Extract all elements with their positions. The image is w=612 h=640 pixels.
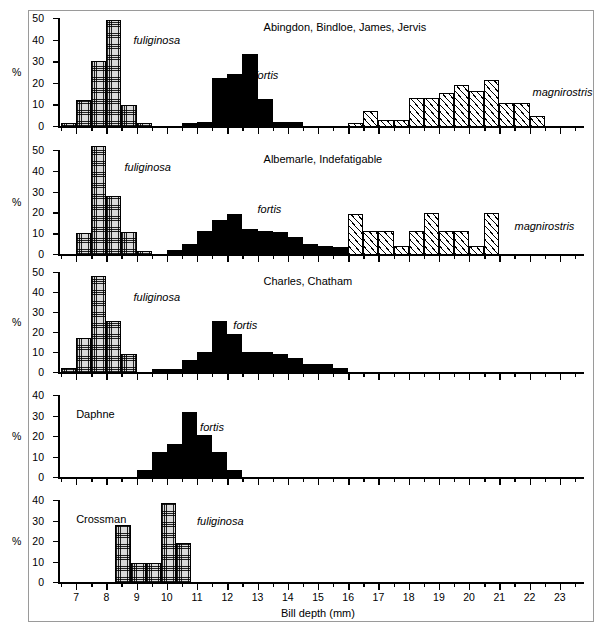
x-tick-minor (424, 374, 425, 378)
x-tick-minor (484, 479, 485, 483)
histogram-bar (121, 105, 136, 126)
y-tick-label: 50 (32, 13, 44, 24)
x-tick-major (167, 128, 168, 134)
histogram-bar (227, 74, 242, 126)
histogram-bar (454, 85, 469, 126)
species-label-fortis: fortis (200, 422, 224, 433)
species-label-fortis: fortis (233, 320, 257, 331)
x-tick-major (197, 128, 198, 134)
x-tick-minor (424, 584, 425, 588)
x-tick-major (137, 479, 138, 485)
x-tick-label: 17 (373, 592, 385, 603)
x-tick-label: 7 (73, 592, 79, 603)
histogram-bar (161, 503, 176, 582)
x-tick-major (318, 374, 319, 380)
y-tick (53, 192, 58, 193)
y-tick-label: 40 (32, 34, 44, 45)
y-axis-label-percent: % (12, 67, 21, 78)
x-tick-major (258, 479, 259, 485)
histogram-bar (182, 123, 197, 126)
y-tick (53, 436, 58, 437)
histogram-bar (258, 352, 273, 372)
x-tick-minor (273, 584, 274, 588)
x-tick-major (348, 256, 349, 262)
x-tick-minor (121, 479, 122, 483)
histogram-bar (176, 543, 191, 582)
x-tick-minor (484, 374, 485, 378)
x-tick-major (288, 256, 289, 262)
x-tick-major (318, 479, 319, 485)
x-tick-minor (514, 128, 515, 132)
histogram-bar (212, 78, 227, 126)
histogram-bar (409, 231, 424, 254)
x-tick-major (439, 374, 440, 380)
y-tick-label: 40 (32, 390, 44, 401)
x-tick-minor (575, 128, 576, 132)
x-tick-major (530, 374, 531, 380)
x-tick-major (530, 256, 531, 262)
x-tick-label: 13 (252, 592, 264, 603)
x-tick-label: 15 (312, 592, 324, 603)
x-tick-label: 14 (282, 592, 294, 603)
x-tick-major (106, 374, 107, 380)
histogram-bar (76, 338, 91, 372)
x-tick-minor (484, 584, 485, 588)
x-tick-label: 8 (103, 592, 109, 603)
figure-darwin-finch-bill-depth: 01020304050%Abingdon, Bindloe, James, Je… (0, 0, 612, 640)
y-tick-label: 40 (32, 166, 44, 177)
x-tick-major (499, 479, 500, 485)
histogram-bar (514, 103, 529, 126)
x-tick-major (76, 584, 77, 590)
y-tick (53, 352, 58, 353)
x-tick-major (106, 584, 107, 590)
histogram-bar (182, 412, 197, 477)
x-tick-minor (152, 128, 153, 132)
x-tick-major (439, 256, 440, 262)
x-tick-minor (61, 374, 62, 378)
x-tick-major (499, 374, 500, 380)
x-tick-major (378, 479, 379, 485)
histogram-bar (152, 452, 167, 477)
species-label-magnirostris: magnirostris (533, 87, 593, 98)
x-tick-major (227, 374, 228, 380)
x-tick-minor (363, 374, 364, 378)
x-tick-major (469, 374, 470, 380)
histogram-bar (167, 250, 182, 254)
histogram-bar (61, 368, 76, 372)
histogram-bar (76, 100, 91, 126)
y-tick (53, 562, 58, 563)
x-tick-label: 9 (134, 592, 140, 603)
x-tick-minor (545, 256, 546, 260)
x-tick-major (469, 479, 470, 485)
x-tick-major (227, 584, 228, 590)
y-axis-line (58, 18, 60, 126)
histogram-bar (333, 368, 348, 372)
x-tick-minor (514, 256, 515, 260)
panel-title: Crossman (76, 514, 126, 525)
y-tick-label: 50 (32, 145, 44, 156)
x-tick-minor (545, 584, 546, 588)
histogram-bar (288, 237, 303, 254)
x-tick-minor (242, 584, 243, 588)
x-tick-major (409, 479, 410, 485)
x-tick-minor (61, 479, 62, 483)
x-tick-minor (484, 256, 485, 260)
histogram-bar (439, 93, 454, 126)
x-tick-minor (182, 479, 183, 483)
y-axis-line (58, 150, 60, 254)
y-tick (53, 40, 58, 41)
y-tick (53, 521, 58, 522)
x-tick-major (560, 479, 561, 485)
x-tick-major (197, 584, 198, 590)
panel-title: Abingdon, Bindloe, James, Jervis (264, 22, 427, 33)
histogram-bar (318, 246, 333, 254)
x-tick-minor (152, 256, 153, 260)
x-tick-major (409, 374, 410, 380)
x-tick-label: 10 (161, 592, 173, 603)
histogram-bar (212, 321, 227, 372)
histogram-bar (182, 244, 197, 254)
x-tick-minor (121, 374, 122, 378)
x-tick-major (439, 479, 440, 485)
y-tick-label: 40 (32, 287, 44, 298)
x-tick-minor (91, 374, 92, 378)
